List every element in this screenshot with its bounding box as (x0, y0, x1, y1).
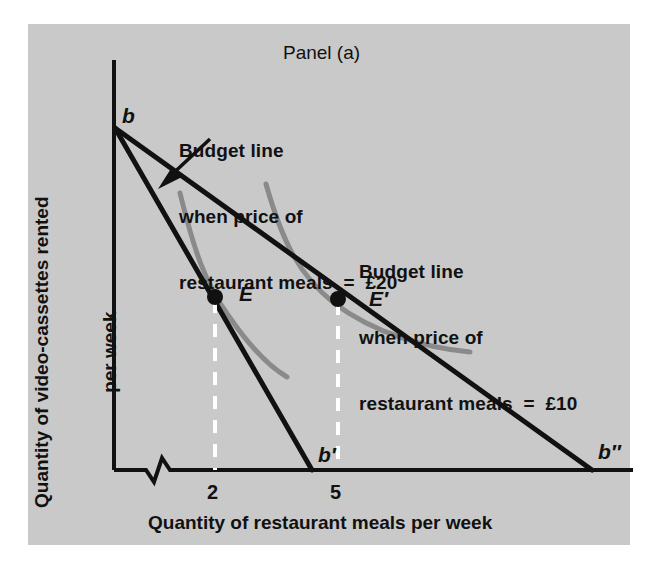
page-title: Panel (a) (283, 42, 360, 64)
point-label-E-prime: E′ (369, 287, 388, 311)
point-label-E: E (239, 282, 253, 306)
x-axis (114, 458, 633, 482)
y-axis-label: Quantity of video-cassettes rented per w… (0, 142, 167, 562)
y-axis-label-line2: per week (99, 142, 122, 562)
x-tick-label-2: 2 (207, 481, 218, 504)
y-axis-label-line1: Quantity of video-cassettes rented (30, 142, 53, 562)
annotation-budget-line-10-line2: when price of (359, 327, 577, 349)
x-tick-label-5: 5 (330, 481, 341, 504)
point-label-b-prime: b′ (318, 443, 336, 467)
annotation-budget-line-10: Budget line when price of restaurant mea… (359, 217, 577, 459)
annotation-budget-line-10-line1: Budget line (359, 261, 577, 283)
annotation-budget-line-20-line1: Budget line (179, 140, 397, 162)
point-label-b: b (122, 104, 135, 128)
figure-root: Panel (a) Budget line when price of rest… (0, 0, 656, 570)
x-axis-label: Quantity of restaurant meals per week (148, 512, 492, 534)
point-label-b-double-prime: b″ (598, 440, 621, 464)
annotation-budget-line-10-line3: restaurant meals = £10 (359, 393, 577, 415)
